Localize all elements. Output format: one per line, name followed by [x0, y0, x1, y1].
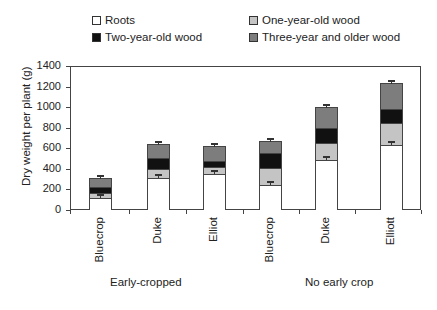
bar-segment-three-year-and-older-wood [381, 83, 402, 109]
x-tick [243, 210, 244, 214]
bar-segment-two-year-old-wood [148, 158, 169, 169]
error-bar-stem [214, 170, 215, 174]
error-bar-stem [326, 156, 327, 160]
bar-segment-three-year-and-older-wood [148, 144, 169, 157]
legend-label: Three-year and older wood [262, 31, 400, 43]
bar-segment-roots [316, 160, 337, 210]
x-tick-label: Bluecrop [263, 217, 275, 277]
error-bar-stem [100, 194, 101, 198]
x-tick [186, 210, 187, 214]
x-tick [129, 210, 130, 214]
group-label-early-cropped: Early-cropped [110, 276, 182, 288]
bar-segment-three-year-and-older-wood [204, 146, 225, 160]
error-bar-stem [391, 80, 392, 84]
bar-segment-roots [381, 145, 402, 210]
two-year-swatch [92, 33, 101, 42]
bar-segment-two-year-old-wood [260, 153, 281, 167]
bar-segment-roots [148, 178, 169, 210]
legend-label: One-year-old wood [262, 14, 360, 26]
y-tick-label: 800 [31, 121, 61, 133]
x-tick-label: Bluecrop [93, 217, 105, 277]
legend-item-roots: Roots [92, 14, 135, 26]
error-bar-stem [391, 141, 392, 145]
group-label-no-early-crop: No early crop [305, 276, 373, 288]
y-tick-label: 0 [31, 203, 61, 215]
bar-elliot-2 [203, 146, 226, 210]
error-bar-stem [214, 143, 215, 147]
bar-segment-roots [90, 198, 111, 210]
y-tick-label: 200 [31, 182, 61, 194]
legend-label: Two-year-old wood [105, 31, 202, 43]
roots-swatch [92, 16, 101, 25]
x-tick [421, 210, 422, 214]
y-tick-label: 600 [31, 141, 61, 153]
x-tick-label: Elliot [207, 217, 219, 277]
x-tick [299, 210, 300, 214]
x-tick [70, 210, 71, 214]
bar-segment-two-year-old-wood [90, 187, 111, 193]
legend-item-three-year: Three-year and older wood [249, 31, 400, 43]
legend-item-two-year: Two-year-old wood [92, 31, 202, 43]
legend: Roots One-year-old wood Two-year-old woo… [0, 0, 437, 50]
x-tick-label: Duke [319, 217, 331, 277]
error-bar-stem [326, 104, 327, 108]
bar-segment-three-year-and-older-wood [260, 141, 281, 153]
bar-bluecrop-3 [259, 141, 282, 210]
x-tick [355, 210, 356, 214]
error-bar-stem [270, 138, 271, 142]
one-year-swatch [249, 16, 258, 25]
bar-segment-two-year-old-wood [381, 109, 402, 122]
legend-label: Roots [105, 14, 135, 26]
x-tick-label: Elliott [384, 217, 396, 277]
bar-segment-roots [260, 185, 281, 210]
y-tick-label: 1000 [31, 100, 61, 112]
error-bar-stem [100, 175, 101, 179]
plot-area [70, 66, 421, 210]
legend-item-one-year: One-year-old wood [249, 14, 360, 26]
bar-elliott-5 [380, 83, 403, 210]
bar-segment-roots [204, 174, 225, 210]
bar-segment-two-year-old-wood [204, 161, 225, 167]
three-year-swatch [249, 33, 258, 42]
error-bar-stem [158, 141, 159, 145]
bar-segment-three-year-and-older-wood [316, 107, 337, 128]
y-tick-label: 1400 [31, 59, 61, 71]
error-bar-stem [270, 181, 271, 185]
bar-segment-three-year-and-older-wood [90, 178, 111, 187]
y-tick-label: 400 [31, 162, 61, 174]
x-tick-label: Duke [151, 217, 163, 277]
y-tick-label: 1200 [31, 80, 61, 92]
bar-segment-two-year-old-wood [316, 128, 337, 143]
error-bar-stem [158, 174, 159, 178]
